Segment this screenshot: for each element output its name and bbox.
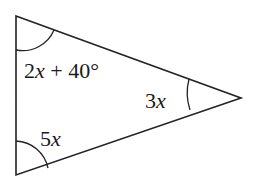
- triangle-diagram: 2x + 40° 3x 5x: [0, 0, 265, 192]
- angle-arc-top: [16, 30, 54, 51]
- angle-label-top: 2x + 40°: [24, 58, 99, 83]
- angle-label-bottom: 5x: [40, 126, 61, 151]
- angle-arc-right: [187, 79, 190, 110]
- angle-label-right: 3x: [145, 88, 166, 113]
- triangle: [16, 16, 241, 175]
